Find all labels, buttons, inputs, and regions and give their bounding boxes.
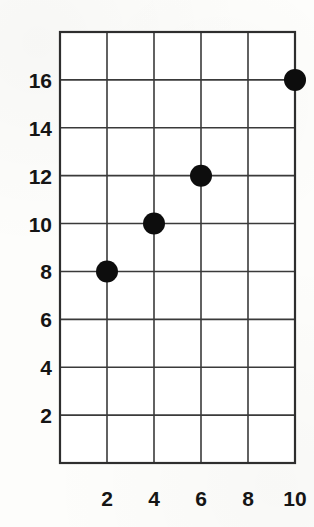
- scatter-chart-figure: 161412108642 246810: [0, 0, 314, 527]
- x-axis-tick-label: 2: [101, 488, 113, 509]
- y-axis-tick-label: 16: [29, 69, 52, 90]
- scatter-plot-page: 161412108642 246810: [0, 0, 314, 527]
- y-axis-tick-label: 2: [40, 405, 52, 426]
- y-axis-tick-label: 12: [29, 165, 52, 186]
- x-axis-tick-label: 6: [195, 488, 207, 509]
- data-point-marker: [143, 213, 165, 235]
- data-point-marker: [96, 260, 118, 282]
- data-point-marker: [284, 69, 306, 91]
- x-axis-tick-label: 10: [283, 488, 306, 509]
- y-axis-tick-label: 4: [40, 357, 52, 378]
- y-axis-tick-label: 6: [40, 309, 52, 330]
- y-axis-tick-label: 10: [29, 213, 52, 234]
- data-point-marker: [190, 165, 212, 187]
- y-axis-tick-label: 8: [40, 261, 52, 282]
- plot-area-background: [60, 32, 295, 463]
- y-axis-tick-label: 14: [29, 117, 52, 138]
- x-axis-tick-label: 8: [242, 488, 254, 509]
- x-axis-tick-label: 4: [148, 488, 160, 509]
